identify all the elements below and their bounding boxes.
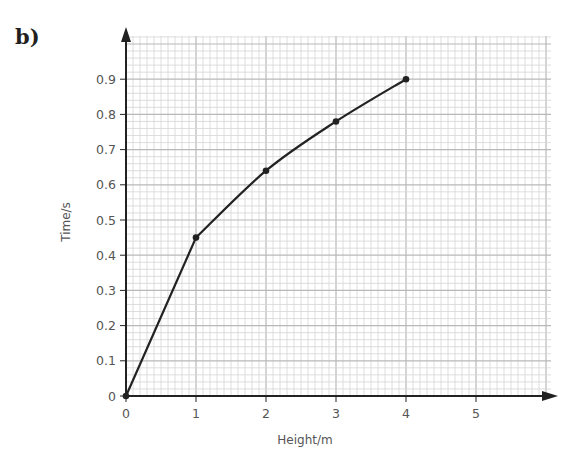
y-tick-label: 0.5 [96, 213, 116, 228]
x-axis-title: Height/m [277, 433, 332, 447]
y-tick-label: 0.6 [96, 177, 116, 192]
x-tick-label: 3 [332, 406, 340, 421]
x-tick-label: 5 [472, 406, 480, 421]
line-chart: 01234500.10.20.30.40.50.60.70.80.9 Heigh… [0, 0, 587, 461]
y-tick-label: 0 [108, 389, 116, 404]
y-tick-label: 0.9 [96, 72, 116, 87]
grid [126, 36, 551, 396]
data-point [263, 167, 270, 174]
axes [121, 27, 558, 401]
data-point [193, 234, 200, 241]
x-tick-label: 2 [262, 406, 270, 421]
y-axis-title: Time/s [59, 202, 73, 243]
y-tick-label: 0.7 [96, 142, 116, 157]
y-tick-label: 0.2 [96, 318, 116, 333]
x-tick-label: 1 [192, 406, 200, 421]
y-tick-label: 0.1 [96, 353, 116, 368]
y-tick-label: 0.4 [96, 248, 116, 263]
y-tick-label: 0.3 [96, 283, 116, 298]
y-tick-label: 0.8 [96, 107, 116, 122]
data-point [403, 76, 410, 83]
x-tick-label: 4 [402, 406, 410, 421]
data-point [333, 118, 340, 125]
data-point [123, 393, 130, 400]
x-tick-label: 0 [122, 406, 130, 421]
